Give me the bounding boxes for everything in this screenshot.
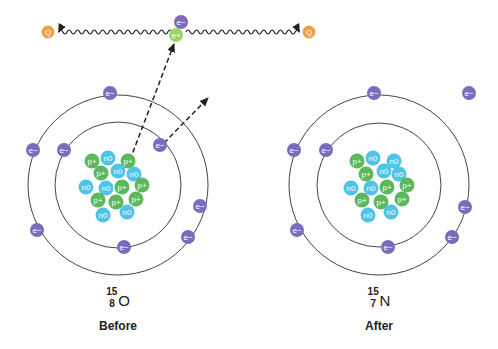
electron-icon: e− — [26, 143, 40, 157]
svg-text:e−: e− — [289, 146, 298, 155]
electron-icon: e− — [445, 230, 459, 244]
gamma-ray-right-wave — [186, 30, 299, 34]
electron-icon: e− — [153, 138, 167, 152]
proton-icon: p+ — [359, 167, 374, 182]
svg-text:p+: p+ — [111, 198, 120, 207]
electron-icon: e− — [57, 143, 71, 157]
neutron-icon: n0 — [364, 181, 379, 196]
svg-text:n0: n0 — [387, 208, 396, 217]
neutron-icon: n0 — [101, 151, 116, 166]
electron-icon: e− — [290, 223, 304, 237]
electron-icon: e− — [30, 223, 44, 237]
svg-text:n0: n0 — [390, 157, 399, 166]
gamma-photon-icon: Q — [42, 26, 55, 39]
ejected-electron-arrow — [164, 98, 208, 143]
isotope-before-symbol: O — [118, 292, 130, 309]
electron-icon: e− — [367, 86, 381, 100]
svg-text:p+: p+ — [361, 170, 370, 179]
proton-icon: p+ — [85, 154, 100, 169]
svg-text:Q: Q — [45, 28, 51, 37]
electrons: e−e−e−e−e−e−e−e−e−e−e−e−e−e−e−e− — [26, 86, 476, 254]
proton-icon: p+ — [115, 180, 130, 195]
neutron-icon: n0 — [111, 164, 126, 179]
svg-text:e−: e− — [32, 226, 41, 235]
neutron-icon: n0 — [366, 151, 381, 166]
proton-icon: p+ — [380, 180, 395, 195]
proton-icon: p+ — [400, 178, 415, 193]
proton-icon: p+ — [355, 193, 370, 208]
isotope-before-mass: 15 — [106, 286, 117, 297]
proton-icon: p+ — [395, 192, 410, 207]
svg-text:p+: p+ — [93, 196, 102, 205]
nuclei: p+n0p+p+n0n0n0n0p+p+p+p+p+n0n0p+n0n0p+n0… — [79, 151, 415, 223]
svg-text:e−: e− — [321, 146, 330, 155]
electron-icon: e− — [193, 199, 207, 213]
neutron-icon: n0 — [120, 205, 135, 220]
svg-text:p+: p+ — [397, 195, 406, 204]
svg-text:e−: e− — [460, 203, 469, 212]
neutron-icon: n0 — [96, 208, 111, 223]
isotope-after: 15 7 N — [339, 292, 419, 309]
annihilating-electron-icon: e− — [174, 15, 188, 29]
caption-before: Before — [78, 319, 158, 333]
svg-text:p+: p+ — [402, 181, 411, 190]
proton-icon: p+ — [135, 178, 150, 193]
svg-text:n0: n0 — [347, 184, 356, 193]
after-outer-shell — [289, 95, 469, 275]
svg-text:p+: p+ — [357, 196, 366, 205]
isotope-after-symbol: N — [380, 292, 391, 309]
emission-arrows — [130, 44, 208, 160]
svg-text:n0: n0 — [123, 208, 132, 217]
free-electron-icon: e− — [462, 86, 476, 100]
svg-text:e−: e− — [105, 89, 114, 98]
svg-text:p+: p+ — [131, 195, 140, 204]
svg-text:e−: e− — [59, 146, 68, 155]
svg-text:n0: n0 — [99, 211, 108, 220]
annihilation-event: QQe−e+ — [42, 15, 316, 42]
svg-text:e−: e− — [176, 18, 185, 27]
svg-text:n0: n0 — [82, 183, 91, 192]
svg-text:n0: n0 — [114, 167, 123, 176]
electron-icon: e− — [287, 143, 301, 157]
neutron-icon: n0 — [79, 180, 94, 195]
gamma-photon-icon: Q — [303, 26, 316, 39]
electron-icon: e− — [319, 143, 333, 157]
svg-text:n0: n0 — [369, 154, 378, 163]
svg-text:e−: e− — [183, 233, 192, 242]
electron-icon: e− — [103, 86, 117, 100]
svg-text:p+: p+ — [96, 169, 105, 178]
positron-icon: e+ — [169, 28, 183, 42]
svg-text:n0: n0 — [130, 170, 139, 179]
proton-icon: p+ — [91, 193, 106, 208]
svg-text:e−: e− — [195, 202, 204, 211]
neutron-icon: n0 — [344, 181, 359, 196]
gamma-ray-left-wave — [59, 30, 172, 34]
svg-text:p+: p+ — [87, 157, 96, 166]
svg-text:n0: n0 — [380, 167, 389, 176]
svg-text:p+: p+ — [382, 183, 391, 192]
isotope-after-mass: 15 — [368, 286, 379, 297]
svg-text:n0: n0 — [367, 184, 376, 193]
svg-text:e−: e− — [28, 146, 37, 155]
neutron-icon: n0 — [377, 164, 392, 179]
proton-icon: p+ — [129, 192, 144, 207]
svg-text:Q: Q — [306, 28, 312, 37]
svg-text:e−: e− — [447, 233, 456, 242]
svg-text:n0: n0 — [364, 211, 373, 220]
svg-text:n0: n0 — [102, 184, 111, 193]
positron-emission-diagram: p+n0p+p+n0n0n0n0p+p+p+p+p+n0n0p+n0n0p+n0… — [0, 0, 498, 349]
electron-icon: e− — [458, 200, 472, 214]
svg-text:e−: e− — [155, 141, 164, 150]
svg-text:n0: n0 — [104, 154, 113, 163]
svg-text:e−: e− — [369, 89, 378, 98]
svg-text:p+: p+ — [376, 198, 385, 207]
neutron-icon: n0 — [361, 208, 376, 223]
svg-text:e−: e− — [119, 243, 128, 252]
electron-icon: e− — [181, 230, 195, 244]
proton-icon: p+ — [350, 154, 365, 169]
svg-text:e−: e− — [292, 226, 301, 235]
svg-text:n0: n0 — [395, 170, 404, 179]
svg-text:p+: p+ — [123, 157, 132, 166]
isotope-before: 15 8 O — [78, 292, 158, 309]
isotope-before-number: 8 — [109, 298, 115, 309]
